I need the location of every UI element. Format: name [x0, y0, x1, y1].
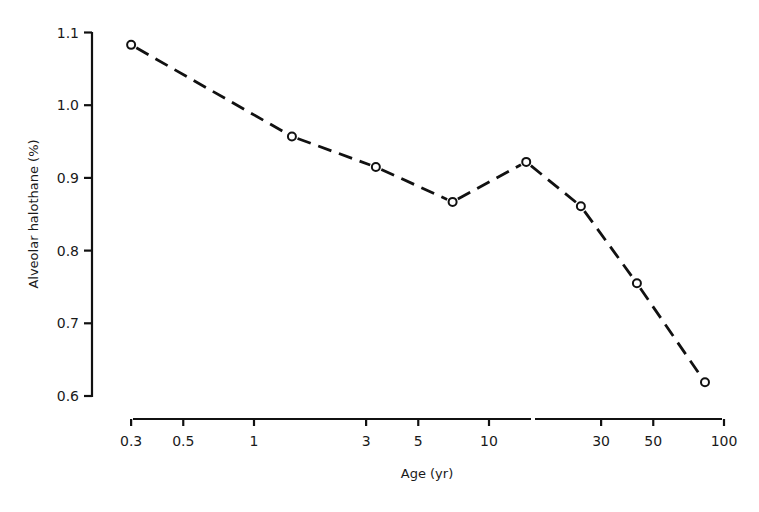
- x-tick-label: 1: [250, 433, 259, 449]
- data-point-marker: [522, 158, 530, 166]
- y-tick-label: 0.7: [57, 315, 79, 331]
- y-tick-label: 1.0: [57, 97, 79, 113]
- data-point-marker: [288, 132, 296, 140]
- series-line-segment: [584, 211, 633, 278]
- data-point-marker: [633, 279, 641, 287]
- data-point-marker: [449, 198, 457, 206]
- series-line-segment: [531, 166, 576, 203]
- series-line-segment: [458, 165, 521, 199]
- x-tick-label: 0.3: [120, 433, 142, 449]
- series-line-segment: [381, 169, 447, 199]
- y-tick-label: 0.9: [57, 170, 79, 186]
- line-chart: 0.60.70.80.91.01.1 0.30.5135103050100 Al…: [0, 0, 759, 512]
- y-tick-label: 1.1: [57, 25, 79, 41]
- y-tick-label: 0.6: [57, 388, 79, 404]
- y-tick-label: 0.8: [57, 243, 79, 259]
- data-point-marker: [372, 163, 380, 171]
- x-tick-label: 5: [414, 433, 423, 449]
- data-series: [127, 41, 709, 386]
- x-tick-label: 50: [644, 433, 662, 449]
- series-line-segment: [640, 288, 701, 377]
- x-ticks: 0.30.5135103050100: [120, 419, 737, 449]
- x-tick-label: 3: [362, 433, 371, 449]
- x-tick-label: 0.5: [172, 433, 194, 449]
- series-line-segment: [136, 48, 286, 134]
- data-point-marker: [577, 202, 585, 210]
- x-tick-label: 100: [711, 433, 738, 449]
- data-point-marker: [701, 378, 709, 386]
- x-tick-label: 10: [480, 433, 498, 449]
- y-ticks: 0.60.70.80.91.01.1: [57, 25, 92, 405]
- x-axis-title: Age (yr): [401, 466, 453, 481]
- data-point-marker: [127, 41, 135, 49]
- y-axis-title: Alveolar halothane (%): [26, 139, 41, 288]
- series-line-segment: [298, 139, 371, 165]
- x-tick-label: 30: [592, 433, 610, 449]
